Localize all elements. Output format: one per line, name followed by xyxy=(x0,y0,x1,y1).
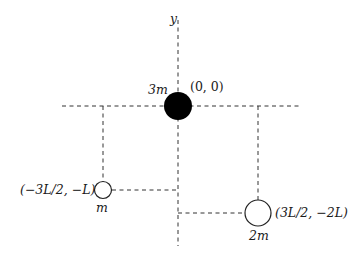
mass-diagram: y 3m (0, 0) (−3L/2, −L) m (3L/2, −2L) 2m xyxy=(0,0,355,257)
left-mass-m xyxy=(95,182,112,199)
right-mass-2m xyxy=(245,200,271,226)
origin-coord-label: (0, 0) xyxy=(190,79,224,94)
left-coord-label: (−3L/2, −L) xyxy=(20,182,95,197)
right-coord-label: (3L/2, −2L) xyxy=(275,205,348,220)
left-mass-label: m xyxy=(96,200,108,215)
y-axis-label: y xyxy=(169,11,178,26)
origin-mass-3m xyxy=(164,92,192,120)
origin-mass-label: 3m xyxy=(148,82,168,97)
right-mass-label: 2m xyxy=(248,228,269,243)
